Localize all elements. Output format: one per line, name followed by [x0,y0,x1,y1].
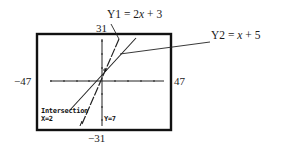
ymin-label: −31 [88,133,105,144]
y1-eq-tail: + 3 [144,8,162,20]
y1-equation-label: Y1 = 2x + 3 [107,9,162,20]
line-y2 [70,38,136,110]
xmin-label: −47 [14,76,31,87]
graph-svg [0,0,282,151]
ymax-label: 31 [96,23,107,34]
y2-eq-part: = [225,29,237,41]
intersection-label: Intersection [41,108,88,115]
y-value-readout: Y=7 [104,116,116,123]
y1-eq-part: = 2 [121,8,139,20]
y1-name: Y1 [107,8,121,20]
y2-name: Y2 [211,29,225,41]
y2-eq-tail: + 5 [242,29,260,41]
y1-callout-line [111,24,119,39]
xmax-label: 47 [174,76,185,87]
y2-callout-line [120,42,210,54]
x-value-readout: X=2 [41,116,53,123]
y2-equation-label: Y2 = x + 5 [211,30,260,41]
